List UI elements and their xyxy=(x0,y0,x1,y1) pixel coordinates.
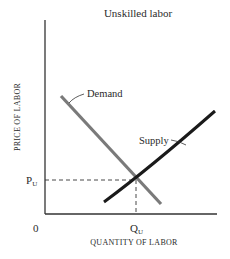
supply-demand-chart: Unskilled labor PRICE OF LABOR Demand Su… xyxy=(0,0,230,259)
demand-leader-line xyxy=(69,94,84,103)
y-axis-label: PRICE OF LABOR xyxy=(13,83,22,152)
chart-title: Unskilled labor xyxy=(104,7,172,19)
quantity-equilibrium-label: QU xyxy=(130,222,143,236)
supply-curve xyxy=(104,111,215,202)
origin-label: 0 xyxy=(33,222,39,234)
demand-label: Demand xyxy=(87,88,123,99)
supply-label: Supply xyxy=(139,135,170,146)
price-equilibrium-label: PU xyxy=(26,174,37,188)
x-axis-label: QUANTITY OF LABOR xyxy=(90,238,178,247)
demand-curve xyxy=(61,96,161,204)
